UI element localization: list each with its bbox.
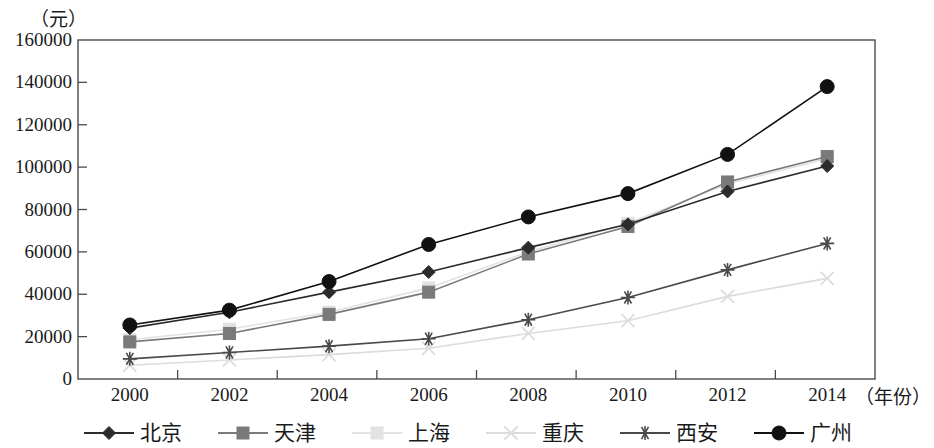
legend-item[interactable]: 重庆 — [484, 422, 584, 444]
marker-circle — [521, 210, 535, 224]
legend-label: 西安 — [676, 423, 718, 444]
marker-circle — [222, 303, 236, 317]
marker-asterisk — [322, 339, 336, 353]
legend-item[interactable]: 西安 — [618, 422, 718, 444]
series-line — [130, 87, 827, 325]
legend-marker-square-icon — [216, 422, 270, 444]
legend-item[interactable]: 天津 — [216, 422, 316, 444]
legend-item[interactable]: 广州 — [752, 422, 852, 444]
legend-marker-circle-icon — [752, 422, 806, 444]
series-西安 — [123, 236, 834, 365]
marker-asterisk — [638, 426, 652, 440]
marker-asterisk — [521, 313, 535, 327]
marker-diamond — [103, 427, 116, 440]
marker-cross — [721, 290, 734, 303]
marker-diamond — [422, 266, 435, 279]
marker-circle — [721, 147, 735, 161]
axis-frame — [78, 40, 875, 379]
marker-square — [223, 327, 235, 339]
marker-asterisk — [721, 263, 735, 277]
legend-label: 北京 — [140, 423, 182, 444]
marker-circle — [123, 318, 137, 332]
marker-circle — [820, 80, 834, 94]
legend-label: 天津 — [274, 423, 316, 444]
legend-marker-dotted-square-icon — [350, 422, 404, 444]
marker-circle — [322, 275, 336, 289]
legend-marker-diamond-icon — [82, 422, 136, 444]
marker-cross — [821, 272, 834, 285]
marker-circle — [772, 426, 786, 440]
legend-label: 上海 — [408, 423, 450, 444]
marker-square — [124, 336, 136, 348]
legend-marker-asterisk-icon — [618, 422, 672, 444]
legend-item[interactable]: 上海 — [350, 422, 450, 444]
plot-area — [0, 0, 934, 448]
series-广州 — [123, 80, 834, 332]
marker-square — [323, 308, 335, 320]
chart-legend: 北京天津上海重庆西安广州 — [0, 418, 934, 448]
marker-asterisk — [222, 346, 236, 360]
line-chart: （元） （年份） 0200004000060000800001000001200… — [0, 0, 934, 448]
legend-label: 重庆 — [542, 423, 584, 444]
marker-asterisk — [621, 290, 635, 304]
marker-circle — [621, 187, 635, 201]
marker-asterisk — [123, 352, 137, 366]
marker-square — [237, 427, 249, 439]
marker-asterisk — [820, 236, 834, 250]
legend-marker-cross-icon — [484, 422, 538, 444]
marker-circle — [422, 237, 436, 251]
legend-label: 广州 — [810, 423, 852, 444]
legend-item[interactable]: 北京 — [82, 422, 182, 444]
marker-square — [423, 286, 435, 298]
marker-dotted-square — [371, 427, 383, 439]
